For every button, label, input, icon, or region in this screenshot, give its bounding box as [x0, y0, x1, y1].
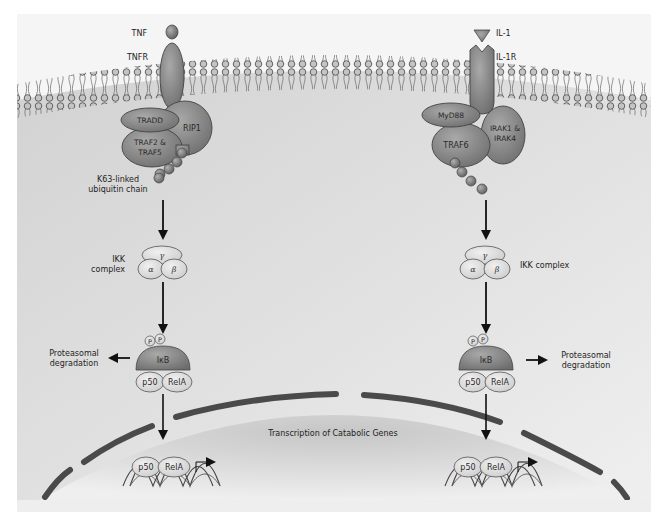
- degradation-label-right-2: degradation: [562, 361, 611, 370]
- tradd-label: TRADD: [136, 116, 163, 125]
- nfkb-signaling-diagram: TNF TNFR RIP1 TRAF2 & TRAF5 TRADD K63-li…: [0, 0, 664, 512]
- ikk-complex-left: γ α β: [138, 246, 187, 279]
- il1r-label: IL-1R: [496, 53, 517, 62]
- ikk-alpha: α: [148, 265, 154, 274]
- ikk-gamma: γ: [160, 251, 165, 260]
- tnfr-receptor: [160, 43, 184, 109]
- nuclear-rela-left: RelA: [165, 463, 183, 472]
- rip1-label: RIP1: [183, 124, 201, 133]
- nuclear-p50-left: p50: [138, 463, 153, 472]
- k63-label-line1: K63-linked: [97, 175, 139, 184]
- degradation-label-left-1: Proteasomal: [49, 349, 99, 358]
- traf5-label: TRAF5: [137, 148, 162, 157]
- ikk-label-line2: complex: [91, 265, 125, 274]
- degradation-label-right-1: Proteasomal: [561, 351, 611, 360]
- ikk-gamma-right: γ: [483, 251, 488, 260]
- myd88-label: MyD88: [438, 111, 464, 120]
- degradation-label-left-2: degradation: [50, 359, 99, 368]
- tnf-label: TNF: [131, 29, 148, 38]
- phospho-right-1: P: [471, 338, 475, 346]
- k63-label-line2: ubiquitin chain: [88, 185, 147, 194]
- rela-label-right: RelA: [491, 378, 509, 387]
- ikk-beta-right: β: [494, 265, 500, 274]
- nuclear-p50-right: p50: [460, 463, 475, 472]
- ikk-alpha-right: α: [470, 265, 476, 274]
- tnf-ligand: [166, 25, 178, 39]
- irak4-label: IRAK4: [494, 134, 516, 143]
- nuclear-rela-right: RelA: [487, 463, 505, 472]
- phospho-2: P: [158, 336, 162, 344]
- il1r-receptor: [470, 45, 494, 114]
- traf6-label: TRAF6: [442, 141, 468, 150]
- il1-label: IL-1: [496, 29, 511, 38]
- p50-label: p50: [142, 378, 157, 387]
- phospho-1: P: [148, 338, 152, 346]
- traf2-label: TRAF2 &: [133, 138, 166, 147]
- tnfr-label: TNFR: [126, 53, 148, 62]
- bottom-strip: [17, 500, 651, 512]
- rela-label: RelA: [168, 378, 186, 387]
- irak1-label: IRAK1 &: [490, 124, 520, 133]
- nucleus-label: Transcription of Catabolic Genes: [267, 429, 397, 438]
- ikk-beta: β: [171, 265, 177, 274]
- ikk-label-line1: IKK: [112, 255, 126, 264]
- ikk-label-right: IKK complex: [520, 261, 570, 270]
- phospho-right-2: P: [481, 336, 485, 344]
- ikb-label-right: IκB: [480, 356, 493, 365]
- p50-label-right: p50: [465, 378, 480, 387]
- ikb-label: IκB: [157, 356, 170, 365]
